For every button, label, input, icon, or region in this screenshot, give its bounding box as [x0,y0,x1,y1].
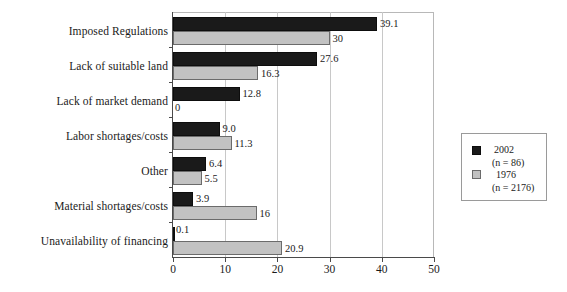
chart-legend: 2002 (n = 86) 1976 (n = 2176) [461,133,547,201]
bar-2002-material-shortages-costs [173,192,193,206]
x-axis-tick-label-0: 0 [170,264,176,276]
value-label-1976-unavailability-of-financing: 20.9 [285,244,303,255]
gridline-20 [277,12,278,257]
value-label-1976-other: 5.5 [205,174,218,185]
y-tick-mark-1 [169,47,173,48]
legend-sublabel-2002: (n = 86) [492,157,524,168]
x-axis-tick-label-10: 10 [219,264,231,276]
y-tick-mark-6 [169,222,173,223]
value-label-1976-material-shortages-costs: 16 [260,209,271,220]
category-axis-labels: Imposed Regulations Lack of suitable lan… [0,12,172,257]
y-tick-mark-2 [169,82,173,83]
x-axis-tick-label-20: 20 [272,264,284,276]
value-label-2002-material-shortages-costs: 3.9 [196,194,209,205]
value-label-1976-lack-of-market-demand: 0 [175,103,180,114]
category-label-lack-of-market-demand: Lack of market demand [56,96,168,108]
legend-label-2002: 2002 [494,144,514,155]
legend-label-1976: 1976 [496,169,516,180]
value-label-2002-unavailability-of-financing: 0.1 [176,225,189,236]
x-tick-mark-40 [382,257,383,262]
gridline-40 [382,12,383,257]
value-label-2002-lack-of-market-demand: 12.8 [243,89,261,100]
x-tick-mark-0 [173,257,174,262]
bar-1976-material-shortages-costs [173,206,257,220]
dark-square-icon [472,146,481,155]
category-label-material-shortages-costs: Material shortages/costs [54,201,168,213]
x-axis-tick-label-50: 50 [428,264,440,276]
gridline-30 [330,12,331,257]
y-tick-mark-3 [169,117,173,118]
horizontal-bar-chart: Imposed Regulations Lack of suitable lan… [0,0,567,292]
value-label-2002-lack-of-suitable-land: 27.6 [320,54,338,65]
bar-1976-other [173,171,202,185]
x-tick-mark-50 [434,257,435,262]
category-label-imposed-regulations: Imposed Regulations [69,26,168,38]
x-tick-mark-30 [330,257,331,262]
value-label-1976-lack-of-suitable-land: 16.3 [261,69,279,80]
value-label-2002-labor-shortages-costs: 9.0 [223,124,236,135]
legend-entry-1976: 1976 (n = 2176) [462,170,546,194]
bar-1976-labor-shortages-costs [173,136,232,150]
x-tick-mark-20 [277,257,278,262]
y-tick-mark-5 [169,187,173,188]
value-label-1976-imposed-regulations: 30 [333,34,344,45]
bar-2002-labor-shortages-costs [173,122,220,136]
legend-entry-2002: 2002 (n = 86) [462,144,546,168]
bar-2002-lack-of-market-demand [173,87,240,101]
x-axis-tick-label-30: 30 [324,264,336,276]
bar-1976-imposed-regulations [173,31,330,45]
legend-sublabel-1976: (n = 2176) [492,182,534,193]
gray-square-icon [472,170,481,179]
category-label-unavailability-of-financing: Unavailability of financing [41,236,168,248]
bar-2002-lack-of-suitable-land [173,52,317,66]
category-label-lack-of-suitable-land: Lack of suitable land [69,61,168,73]
bar-2002-unavailability-of-financing [173,227,175,241]
category-label-labor-shortages-costs: Labor shortages/costs [66,131,168,143]
category-label-other: Other [141,166,168,178]
bar-1976-lack-of-suitable-land [173,66,258,80]
gridline-10 [225,12,226,257]
value-label-2002-imposed-regulations: 39.1 [380,19,398,30]
x-tick-mark-10 [225,257,226,262]
plot-area: 39.1 30 27.6 16.3 12.8 0 9.0 11.3 6.4 5.… [172,12,434,258]
y-tick-mark-4 [169,152,173,153]
bar-2002-imposed-regulations [173,17,377,31]
value-label-1976-labor-shortages-costs: 11.3 [235,139,253,150]
x-axis-tick-label-40: 40 [376,264,388,276]
value-label-2002-other: 6.4 [209,159,222,170]
bar-2002-other [173,157,206,171]
bar-1976-unavailability-of-financing [173,241,282,255]
